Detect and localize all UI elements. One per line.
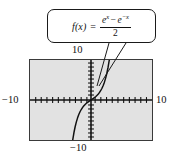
- sinh-graph-figure: f(x) = ex−e−x 2: [0, 0, 173, 163]
- y-axis-min-label: −10: [70, 142, 86, 153]
- formula-equals-sign: =: [89, 21, 97, 32]
- plot-window: [29, 59, 153, 141]
- formula-expression: f(x) = ex−e−x 2: [48, 10, 155, 42]
- plot-canvas: [30, 60, 152, 140]
- y-axis-max-label: 10: [72, 44, 83, 55]
- x-axis-min-label: −10: [2, 94, 18, 105]
- formula-callout-box: f(x) = ex−e−x 2: [47, 9, 156, 43]
- x-axis-max-label: 10: [156, 94, 167, 105]
- numerator-exponent-2: −x: [122, 13, 129, 20]
- formula-fraction: ex−e−x 2: [100, 14, 131, 38]
- formula-lhs: f(x): [72, 21, 86, 32]
- formula-numerator: ex−e−x: [100, 14, 131, 27]
- formula-denominator: 2: [113, 28, 118, 39]
